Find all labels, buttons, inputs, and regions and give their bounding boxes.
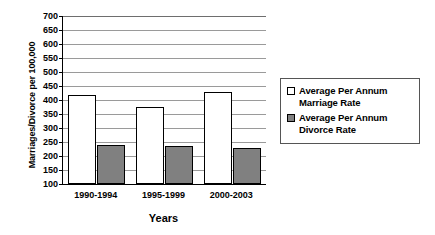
bar-marriage-1990-1994 <box>68 95 96 184</box>
y-axis-tickmark <box>59 184 63 185</box>
x-axis-title: Years <box>62 212 265 224</box>
y-axis-tick-label: 600 <box>28 40 58 49</box>
y-axis-tick-label: 550 <box>28 54 58 63</box>
y-axis-tick-label: 250 <box>28 138 58 147</box>
y-axis-tick-label: 650 <box>28 26 58 35</box>
bar-marriage-1995-1999 <box>136 107 164 184</box>
bar-marriage-2000-2003 <box>204 92 232 184</box>
x-axis-tick-label: 1990-1994 <box>74 190 117 200</box>
y-axis-tick-label: 150 <box>28 166 58 175</box>
y-axis-tick-label: 100 <box>28 180 58 189</box>
y-axis-tick-label: 400 <box>28 96 58 105</box>
y-axis-tick-labels: 700650600550500450400350300250200150100 <box>28 12 58 184</box>
bar-divorce-1990-1994 <box>97 145 125 184</box>
bar-divorce-2000-2003 <box>233 148 261 184</box>
y-axis-tick-label: 500 <box>28 68 58 77</box>
x-axis-tick-label: 2000-2003 <box>210 190 253 200</box>
legend-label: Average Per AnnumMarriage Rate <box>299 85 387 109</box>
x-axis-tick-labels: 1990-19941995-19992000-2003 <box>62 190 265 202</box>
plot-area <box>62 16 266 185</box>
bar-chart-figure: Marriages/Divorce per 100,000 7006506005… <box>0 0 435 235</box>
legend-entry-divorce: Average Per AnnumDivorce Rate <box>287 112 414 136</box>
y-axis-tick-label: 300 <box>28 124 58 133</box>
y-axis-tick-label: 700 <box>28 12 58 21</box>
legend-swatch-icon <box>287 114 295 122</box>
bar-divorce-1995-1999 <box>165 146 193 184</box>
legend-label: Average Per AnnumDivorce Rate <box>299 112 387 136</box>
legend-entry-marriage: Average Per AnnumMarriage Rate <box>287 85 414 109</box>
bars-layer <box>63 16 266 184</box>
y-axis-tick-label: 350 <box>28 110 58 119</box>
chart-legend: Average Per AnnumMarriage RateAverage Pe… <box>280 78 420 144</box>
legend-swatch-icon <box>287 87 295 95</box>
y-axis-tick-label: 200 <box>28 152 58 161</box>
y-axis-tick-label: 450 <box>28 82 58 91</box>
x-axis-tick-label: 1995-1999 <box>142 190 185 200</box>
